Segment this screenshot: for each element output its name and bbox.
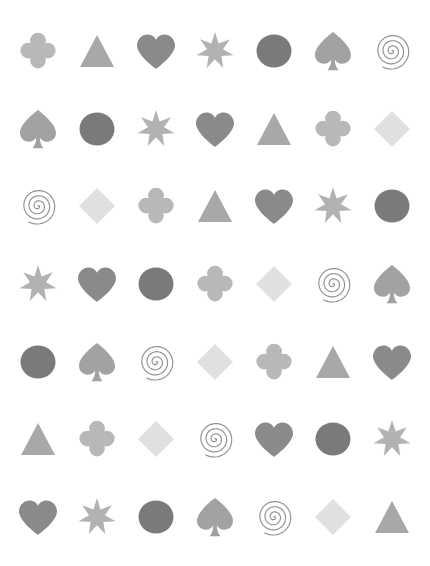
club-icon — [191, 260, 239, 308]
spiral-icon — [309, 260, 357, 308]
shape-cell-club — [67, 401, 126, 479]
spiral-icon — [368, 27, 416, 75]
shape-cell-spade — [185, 478, 244, 556]
shape-cell-circle — [126, 478, 185, 556]
shape-cell-star — [185, 12, 244, 90]
shape-cell-diamond — [245, 245, 304, 323]
triangle-icon — [73, 27, 121, 75]
diamond-icon — [368, 105, 416, 153]
shape-cell-heart — [245, 401, 304, 479]
shape-cell-star — [8, 245, 67, 323]
shape-cell-triangle — [8, 401, 67, 479]
seven-point-star-icon — [191, 27, 239, 75]
shape-cell-triangle — [245, 90, 304, 168]
shape-cell-star — [126, 90, 185, 168]
circle-icon — [14, 338, 62, 386]
shape-cell-heart — [126, 12, 185, 90]
shape-cell-club — [8, 12, 67, 90]
shape-cell-diamond — [363, 90, 422, 168]
shape-cell-heart — [67, 245, 126, 323]
shape-cell-star — [304, 167, 363, 245]
shape-cell-circle — [67, 90, 126, 168]
shape-cell-heart — [185, 90, 244, 168]
circle-icon — [73, 105, 121, 153]
heart-icon — [368, 338, 416, 386]
shape-grid — [0, 0, 430, 566]
shape-cell-circle — [126, 245, 185, 323]
shape-cell-triangle — [304, 323, 363, 401]
shape-cell-spiral — [363, 12, 422, 90]
shape-cell-spiral — [185, 401, 244, 479]
shape-cell-spiral — [245, 478, 304, 556]
seven-point-star-icon — [368, 415, 416, 463]
club-icon — [14, 27, 62, 75]
triangle-icon — [309, 338, 357, 386]
seven-point-star-icon — [309, 182, 357, 230]
triangle-icon — [250, 105, 298, 153]
shape-cell-club — [126, 167, 185, 245]
diamond-icon — [191, 338, 239, 386]
spade-icon — [191, 493, 239, 541]
club-icon — [132, 182, 180, 230]
seven-point-star-icon — [73, 493, 121, 541]
diamond-icon — [250, 260, 298, 308]
heart-icon — [250, 415, 298, 463]
shape-cell-spiral — [304, 245, 363, 323]
shape-cell-diamond — [67, 167, 126, 245]
heart-icon — [250, 182, 298, 230]
shape-cell-heart — [363, 323, 422, 401]
shape-cell-diamond — [126, 401, 185, 479]
shape-cell-circle — [363, 167, 422, 245]
diamond-icon — [309, 493, 357, 541]
shape-cell-triangle — [67, 12, 126, 90]
diamond-icon — [132, 415, 180, 463]
spade-icon — [368, 260, 416, 308]
shape-cell-club — [185, 245, 244, 323]
triangle-icon — [191, 182, 239, 230]
shape-cell-circle — [245, 12, 304, 90]
spiral-icon — [132, 338, 180, 386]
shape-cell-club — [304, 90, 363, 168]
shape-cell-spade — [8, 90, 67, 168]
shape-cell-star — [363, 401, 422, 479]
club-icon — [73, 415, 121, 463]
diamond-icon — [73, 182, 121, 230]
shape-cell-triangle — [185, 167, 244, 245]
shape-cell-star — [67, 478, 126, 556]
shape-cell-heart — [8, 478, 67, 556]
circle-icon — [309, 415, 357, 463]
circle-icon — [368, 182, 416, 230]
heart-icon — [73, 260, 121, 308]
spiral-icon — [250, 493, 298, 541]
spade-icon — [73, 338, 121, 386]
heart-icon — [132, 27, 180, 75]
shape-cell-diamond — [185, 323, 244, 401]
shape-cell-spade — [304, 12, 363, 90]
shape-cell-spiral — [8, 167, 67, 245]
triangle-icon — [368, 493, 416, 541]
spiral-icon — [191, 415, 239, 463]
circle-icon — [250, 27, 298, 75]
spade-icon — [14, 105, 62, 153]
heart-icon — [14, 493, 62, 541]
shape-cell-circle — [304, 401, 363, 479]
circle-icon — [132, 260, 180, 308]
seven-point-star-icon — [14, 260, 62, 308]
club-icon — [250, 338, 298, 386]
heart-icon — [191, 105, 239, 153]
shape-cell-club — [245, 323, 304, 401]
shape-cell-triangle — [363, 478, 422, 556]
shape-cell-spade — [363, 245, 422, 323]
shape-cell-heart — [245, 167, 304, 245]
shape-cell-circle — [8, 323, 67, 401]
club-icon — [309, 105, 357, 153]
triangle-icon — [14, 415, 62, 463]
seven-point-star-icon — [132, 105, 180, 153]
spiral-icon — [14, 182, 62, 230]
spade-icon — [309, 27, 357, 75]
shape-cell-spade — [67, 323, 126, 401]
shape-cell-diamond — [304, 478, 363, 556]
circle-icon — [132, 493, 180, 541]
shape-cell-spiral — [126, 323, 185, 401]
